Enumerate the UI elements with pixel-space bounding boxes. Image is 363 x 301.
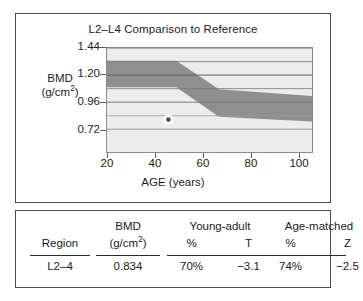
table-header-age-matched-percent: % [262, 237, 319, 249]
x-tick-label-5: 100 [279, 157, 319, 169]
chart-panel: L2–L4 Comparison to Reference BMD (g/cm2… [15, 13, 331, 203]
plot-area [106, 47, 313, 153]
x-tick-label-4: 80 [231, 157, 271, 169]
table-header-young-adult: Young-adult [163, 220, 277, 232]
results-table: Region L2–4 BMD (g/cm2) 0.834 Young-adul… [16, 211, 330, 287]
table-header-age-matched: Age-matched [262, 220, 363, 232]
table-header-region: Region [26, 237, 94, 249]
x-tick-label-2: 40 [135, 157, 175, 169]
y-tick-label-3: 0.96 [56, 95, 100, 107]
results-table-panel: Region L2–4 BMD (g/cm2) 0.834 Young-adul… [15, 210, 331, 288]
table-cell-age-matched-z: −2.5 [319, 260, 363, 272]
y-tick-label-1: 1.44 [56, 40, 100, 52]
table-cell-age-matched-percent: 74% [262, 260, 319, 272]
table-header-young-adult-percent: % [163, 237, 220, 249]
x-tick-label-3: 60 [183, 157, 223, 169]
x-tick-label-1: 20 [87, 157, 127, 169]
table-rule-age-matched [266, 255, 346, 256]
reference-chart-svg [107, 48, 312, 152]
table-header-bmd: BMD [92, 220, 164, 232]
table-rule-young-adult [167, 255, 273, 256]
table-rule-region [30, 255, 90, 256]
table-header-age-matched-z: Z [319, 237, 363, 249]
y-tick-label-2: 1.20 [56, 67, 100, 79]
table-header-bmd-units: (g/cm2) [92, 237, 164, 249]
table-cell-young-adult-percent: 70% [163, 260, 220, 272]
table-cell-region: L2–4 [26, 260, 94, 272]
bmd-units-exponent: 2 [138, 235, 143, 244]
patient-marker[interactable] [166, 117, 171, 122]
table-cell-bmd: 0.834 [92, 260, 164, 272]
chart-title: L2–L4 Comparison to Reference [16, 23, 330, 35]
table-rule-bmd [96, 255, 160, 256]
y-tick-label-4: 0.72 [56, 123, 100, 135]
x-axis-label: AGE (years) [16, 176, 330, 188]
